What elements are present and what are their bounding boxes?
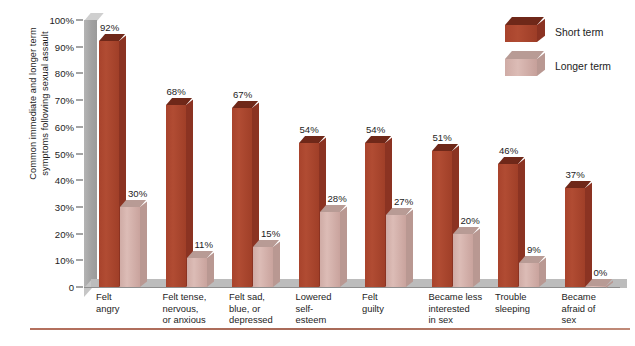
bottom-divider [30, 328, 630, 330]
y-tick-label: 0 [69, 282, 74, 293]
bar-value-label: 28% [328, 193, 347, 204]
y-tick-label: 50% [55, 148, 74, 159]
y-tick-mark [76, 126, 83, 127]
bar-longer-term[interactable] [187, 258, 207, 287]
bar-group: 54%28% [299, 13, 361, 288]
x-axis-label: Felt sad, blue, or depressed [229, 291, 303, 326]
y-tick-mark [76, 180, 83, 181]
x-axis-label: Felt guilty [362, 291, 436, 314]
chart-legend: Short term Longer term [505, 18, 630, 86]
x-axis-label: Became less interested in sex [429, 291, 503, 326]
bar-longer-term[interactable] [586, 286, 606, 288]
bar-value-label: 15% [261, 228, 280, 239]
bar-longer-term[interactable] [386, 215, 406, 287]
y-axis-ticks: 100%90%80%70%60%50%40%30%20%10%0 [38, 0, 74, 346]
y-tick-label: 20% [55, 228, 74, 239]
bar-group: 51%20% [432, 13, 494, 288]
y-tick-mark [76, 46, 83, 47]
bar-short-term[interactable] [498, 164, 518, 287]
bar-short-term[interactable] [99, 41, 119, 287]
bar-chart: Common immediate and longer term symptom… [0, 0, 635, 346]
bar-short-term[interactable] [166, 105, 186, 287]
x-axis-label: Lowered self- esteem [296, 291, 370, 326]
bar-longer-term[interactable] [320, 212, 340, 287]
y-tick-label: 80% [55, 68, 74, 79]
bar-value-label: 20% [461, 215, 480, 226]
y-tick-label: 90% [55, 41, 74, 52]
bar-value-label: 37% [566, 169, 585, 180]
bar-group: 68%11% [166, 13, 228, 288]
legend-item-longer-term[interactable]: Longer term [505, 52, 630, 86]
bar-value-label: 54% [366, 124, 385, 135]
longer-term-swatch [505, 59, 537, 76]
x-axis-label: Felt tense, nervous, or anxious [163, 291, 237, 326]
bar-value-label: 27% [394, 196, 413, 207]
bar-value-label: 46% [499, 145, 518, 156]
y-tick-label: 10% [55, 255, 74, 266]
x-axis-label: Trouble sleeping [495, 291, 569, 314]
legend-item-short-term[interactable]: Short term [505, 18, 630, 52]
y-tick-label: 100% [49, 15, 74, 26]
bar-value-label: 9% [527, 244, 541, 255]
bar-value-label: 51% [433, 132, 452, 143]
bar-group: 54%27% [365, 13, 427, 288]
bar-group: 67%15% [232, 13, 294, 288]
bar-longer-term[interactable] [453, 234, 473, 287]
bar-group: 92%30% [99, 13, 161, 288]
bar-value-label: 30% [128, 188, 147, 199]
bar-value-label: 11% [195, 239, 214, 250]
y-tick-mark [76, 260, 83, 261]
bar-short-term[interactable] [432, 151, 452, 287]
y-tick-mark [76, 153, 83, 154]
y-tick-label: 60% [55, 121, 74, 132]
bar-longer-term[interactable] [120, 207, 140, 287]
x-axis-label: Became afraid of sex [562, 291, 635, 326]
y-tick-mark [76, 100, 83, 101]
y-tick-mark [76, 20, 83, 21]
bar-longer-term[interactable] [519, 263, 539, 287]
bar-short-term[interactable] [565, 188, 585, 287]
bar-value-label: 92% [100, 22, 119, 33]
x-axis-label: Felt angry [96, 291, 170, 314]
legend-label-longer-term: Longer term [555, 61, 611, 72]
bar-short-term[interactable] [299, 143, 319, 287]
bar-value-label: 68% [167, 86, 186, 97]
y-tick-mark [76, 73, 83, 74]
y-tick-mark [76, 287, 83, 288]
short-term-swatch [505, 25, 537, 42]
bar-short-term[interactable] [365, 143, 385, 287]
y-tick-mark [76, 233, 83, 234]
y-tick-label: 70% [55, 95, 74, 106]
y-tick-label: 40% [55, 175, 74, 186]
y-tick-mark [76, 206, 83, 207]
x-axis-labels: Felt angryFelt tense, nervous, or anxiou… [97, 291, 627, 341]
bar-longer-term[interactable] [253, 247, 273, 287]
bar-short-term[interactable] [232, 108, 252, 287]
axis-wall [84, 20, 97, 287]
legend-label-short-term: Short term [555, 27, 604, 38]
bar-value-label: 54% [300, 124, 319, 135]
bar-value-label: 67% [233, 89, 252, 100]
y-tick-label: 30% [55, 201, 74, 212]
bar-value-label: 0% [594, 267, 608, 278]
